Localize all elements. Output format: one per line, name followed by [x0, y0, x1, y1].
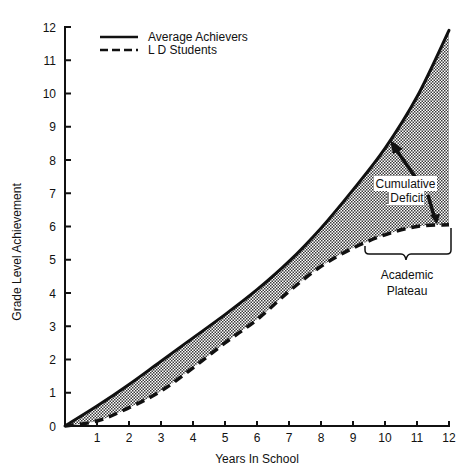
y-tick-label: 6: [49, 220, 56, 234]
x-tick-label: 4: [190, 431, 197, 445]
y-tick-label: 7: [49, 187, 56, 201]
x-tick-label: 6: [254, 431, 261, 445]
y-tick-label: 12: [43, 21, 57, 35]
x-ticks: 123456789101112: [94, 421, 456, 445]
x-axis-title: Years In School: [215, 452, 299, 466]
x-tick-label: 5: [222, 431, 229, 445]
y-tick-label: 8: [49, 154, 56, 168]
x-tick-label: 2: [126, 431, 133, 445]
x-tick-label: 12: [442, 431, 456, 445]
y-tick-label: 2: [49, 353, 56, 367]
deficit-label-line-1: Cumulative: [375, 177, 435, 191]
y-tick-label: 3: [49, 320, 56, 334]
plateau-label-line-2: Plateau: [387, 284, 428, 298]
y-ticks: 0123456789101112: [43, 21, 71, 434]
legend-label-ld-students: L D Students: [148, 43, 217, 57]
x-tick-label: 10: [378, 431, 392, 445]
axes: 0123456789101112 123456789101112: [43, 21, 456, 446]
academic-plateau-annotation: Academic Plateau: [365, 228, 451, 298]
y-axis-title: Grade Level Achievement: [10, 183, 24, 321]
y-tick-label: 5: [49, 253, 56, 267]
y-tick-label: 10: [43, 87, 57, 101]
legend-label-average-achievers: Average Achievers: [148, 30, 248, 44]
y-tick-label: 9: [49, 120, 56, 134]
y-tick-label: 11: [44, 54, 57, 68]
x-tick-label: 7: [286, 431, 293, 445]
y-tick-label: 0: [49, 420, 56, 434]
x-tick-label: 9: [350, 431, 357, 445]
legend: Average Achievers L D Students: [100, 30, 248, 57]
x-tick-label: 3: [158, 431, 165, 445]
plateau-label-line-1: Academic: [381, 268, 434, 282]
y-tick-label: 4: [49, 287, 56, 301]
x-tick-label: 1: [94, 431, 101, 445]
x-tick-label: 8: [318, 431, 325, 445]
cumulative-deficit-area: [65, 30, 449, 426]
x-tick-label: 11: [411, 431, 424, 445]
y-tick-label: 1: [49, 386, 56, 400]
deficit-label-line-2: Deficit: [390, 191, 424, 205]
chart: 0123456789101112 123456789101112 Average…: [0, 0, 470, 474]
